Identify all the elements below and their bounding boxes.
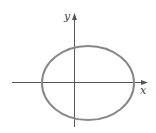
y-axis	[72, 13, 77, 127]
y-axis-arrow-icon	[72, 13, 77, 20]
ellipse-diagram: y x	[0, 0, 156, 133]
x-axis	[12, 80, 148, 85]
y-axis-label: y	[63, 10, 71, 23]
x-axis-label: x	[140, 84, 147, 97]
